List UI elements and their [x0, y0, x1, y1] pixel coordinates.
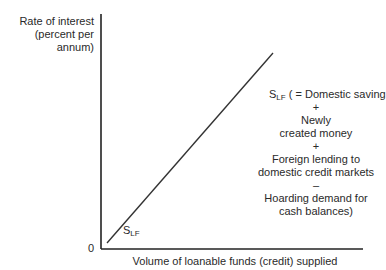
- annotation-line-created-money: created money: [250, 127, 382, 140]
- annotation-plus-1: +: [250, 101, 382, 114]
- annotation-line-hoarding: Hoarding demand for: [250, 192, 382, 205]
- origin-label: 0: [88, 242, 94, 255]
- curve-annotation-head-text: ( = Domestic saving: [289, 88, 386, 100]
- y-axis-label-line-1: Rate of interest: [4, 15, 94, 28]
- curve-label-lower: SLF: [123, 224, 140, 240]
- curve-annotation-body: + Newly created money + Foreign lending …: [250, 101, 382, 218]
- loanable-funds-supply-curve: [107, 53, 273, 243]
- y-axis-label-line-3: annum): [4, 41, 94, 54]
- x-axis-label: Volume of loanable funds (credit) suppli…: [105, 255, 365, 268]
- curve-label-lower-subscript: LF: [130, 229, 139, 238]
- annotation-line-domestic-credit: domestic credit markets: [250, 166, 382, 179]
- annotation-plus-2: +: [250, 140, 382, 153]
- y-axis-label-line-2: (percent per: [4, 28, 94, 41]
- annotation-minus: –: [250, 179, 382, 192]
- annotation-line-cash-balances: cash balances): [250, 205, 382, 218]
- y-axis-label: Rate of interest (percent per annum): [4, 15, 94, 54]
- annotation-line-newly: Newly: [250, 114, 382, 127]
- annotation-line-foreign-lending: Foreign lending to: [250, 153, 382, 166]
